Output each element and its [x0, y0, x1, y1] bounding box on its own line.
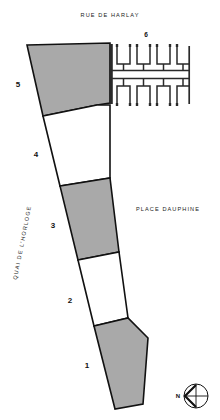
- compass-label-north: N: [176, 393, 180, 399]
- site-plan-figure: RUE DE HARLAY 5 4 3 2 1 6: [0, 0, 220, 420]
- plan-canvas: RUE DE HARLAY 5 4 3 2 1 6: [0, 0, 220, 420]
- parcel-label-6: 6: [144, 31, 148, 38]
- parcel-label-5: 5: [16, 80, 21, 89]
- place-label-dauphine: PLACE DAUPHINE: [136, 206, 200, 212]
- parcel-label-2: 2: [68, 296, 73, 305]
- parcel-label-4: 4: [34, 150, 39, 159]
- parcel-label-3: 3: [51, 221, 56, 230]
- street-label-rue-de-harlay: RUE DE HARLAY: [81, 12, 140, 18]
- parcel-label-1: 1: [85, 361, 90, 370]
